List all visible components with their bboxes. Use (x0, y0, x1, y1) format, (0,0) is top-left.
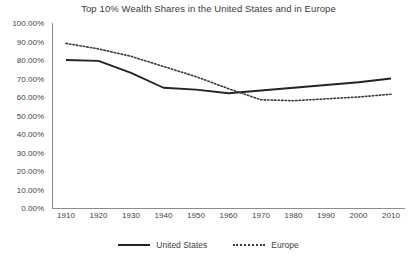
legend-line-icon (233, 244, 265, 246)
legend-item[interactable]: United States (118, 240, 207, 250)
plot-area (52, 23, 405, 208)
y-axis-tick-label: 60.00% (17, 93, 44, 102)
x-axis-tick-label: 1910 (57, 211, 75, 220)
x-axis-line (52, 208, 405, 209)
chart-title: Top 10% Wealth Shares in the United Stat… (0, 3, 417, 14)
legend-label: Europe (271, 240, 298, 250)
y-axis-tick-label: 70.00% (17, 74, 44, 83)
y-axis-tick-labels: 0.00%10.00%20.00%30.00%40.00%50.00%60.00… (0, 23, 48, 208)
chart-legend: United StatesEurope (0, 240, 417, 250)
x-axis-tick-label: 1930 (122, 211, 140, 220)
x-axis-tick-label: 2000 (350, 211, 368, 220)
y-axis-tick-label: 50.00% (17, 111, 44, 120)
x-axis-tick-label: 1940 (155, 211, 173, 220)
legend-label: United States (156, 240, 207, 250)
x-axis-tick-label: 1980 (285, 211, 303, 220)
x-axis-tick-label: 1950 (187, 211, 205, 220)
legend-item[interactable]: Europe (233, 240, 298, 250)
legend-line-icon (118, 244, 150, 246)
y-axis-tick-label: 20.00% (17, 167, 44, 176)
x-axis-tick-label: 1970 (252, 211, 270, 220)
y-axis-tick-label: 100.00% (12, 19, 44, 28)
y-axis-tick-label: 80.00% (17, 56, 44, 65)
y-axis-tick-label: 0.00% (21, 204, 44, 213)
y-axis-tick-label: 40.00% (17, 130, 44, 139)
y-axis-tick-label: 30.00% (17, 148, 44, 157)
x-axis-tick-label: 1920 (90, 211, 108, 220)
y-axis-tick-label: 10.00% (17, 185, 44, 194)
y-axis-tick-label: 90.00% (17, 37, 44, 46)
series-lines (52, 23, 405, 208)
x-axis-tick-label: 1960 (220, 211, 238, 220)
x-axis-tick-label: 2010 (382, 211, 400, 220)
x-axis-tick-label: 1990 (317, 211, 335, 220)
wealth-shares-chart: Top 10% Wealth Shares in the United Stat… (0, 0, 417, 264)
series-line (66, 43, 391, 100)
x-axis-tick-labels: 1910192019301940195019601970198019902000… (52, 211, 405, 225)
